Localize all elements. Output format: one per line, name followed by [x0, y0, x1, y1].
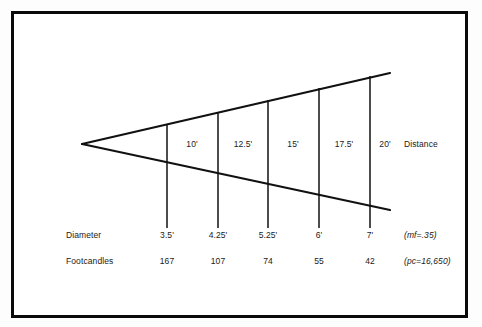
diameter-value-2: 4.25' [209, 230, 228, 240]
footcandles-value-1: 167 [160, 256, 174, 266]
maintenance-factor-note: (mf=.35) [404, 230, 437, 240]
beam-cone-drawing [0, 0, 482, 327]
diameter-value-4: 6' [316, 230, 323, 240]
diameter-value-5: 7' [367, 230, 374, 240]
diameter-value-3: 5.25' [259, 230, 278, 240]
distance-row-label: Distance [404, 139, 438, 149]
distance-label-4: 17.5' [335, 139, 354, 149]
distance-label-3: 15' [287, 139, 298, 149]
footcandles-value-5: 42 [365, 256, 375, 266]
footcandles-value-2: 107 [211, 256, 225, 266]
cone-lower-ray [82, 144, 390, 210]
footcandles-row-label: Footcandles [66, 256, 113, 266]
footcandles-value-3: 74 [263, 256, 273, 266]
distance-label-1: 10' [186, 139, 197, 149]
peak-candela-note: (pc=16,650) [404, 256, 451, 266]
distance-label-5: 20' [379, 139, 390, 149]
distance-label-2: 12.5' [234, 139, 253, 149]
diameter-value-1: 3.5' [160, 230, 174, 240]
diameter-row-label: Diameter [66, 230, 101, 240]
diagram-page: 10' 12.5' 15' 17.5' 20' Distance Diamete… [0, 0, 482, 327]
footcandles-value-4: 55 [314, 256, 324, 266]
cone-upper-ray [82, 73, 390, 144]
